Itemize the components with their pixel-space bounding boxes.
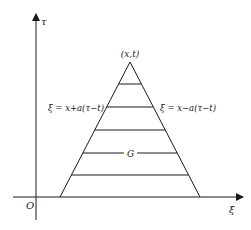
region-label: G — [127, 149, 134, 159]
xi-axis-label: ξ — [229, 204, 235, 215]
apex-label: (x,t) — [121, 49, 140, 59]
origin-label: O — [26, 200, 34, 211]
right-edge-equation: ξ = x−a(τ−t) — [160, 103, 216, 113]
characteristic-triangle-diagram: τ ξ O (x,t) ξ = x+a(τ−t) ξ = x−a(τ−t) G — [0, 0, 251, 230]
tau-axis-label: τ — [41, 16, 47, 27]
left-edge-equation: ξ = x+a(τ−t) — [48, 103, 104, 113]
